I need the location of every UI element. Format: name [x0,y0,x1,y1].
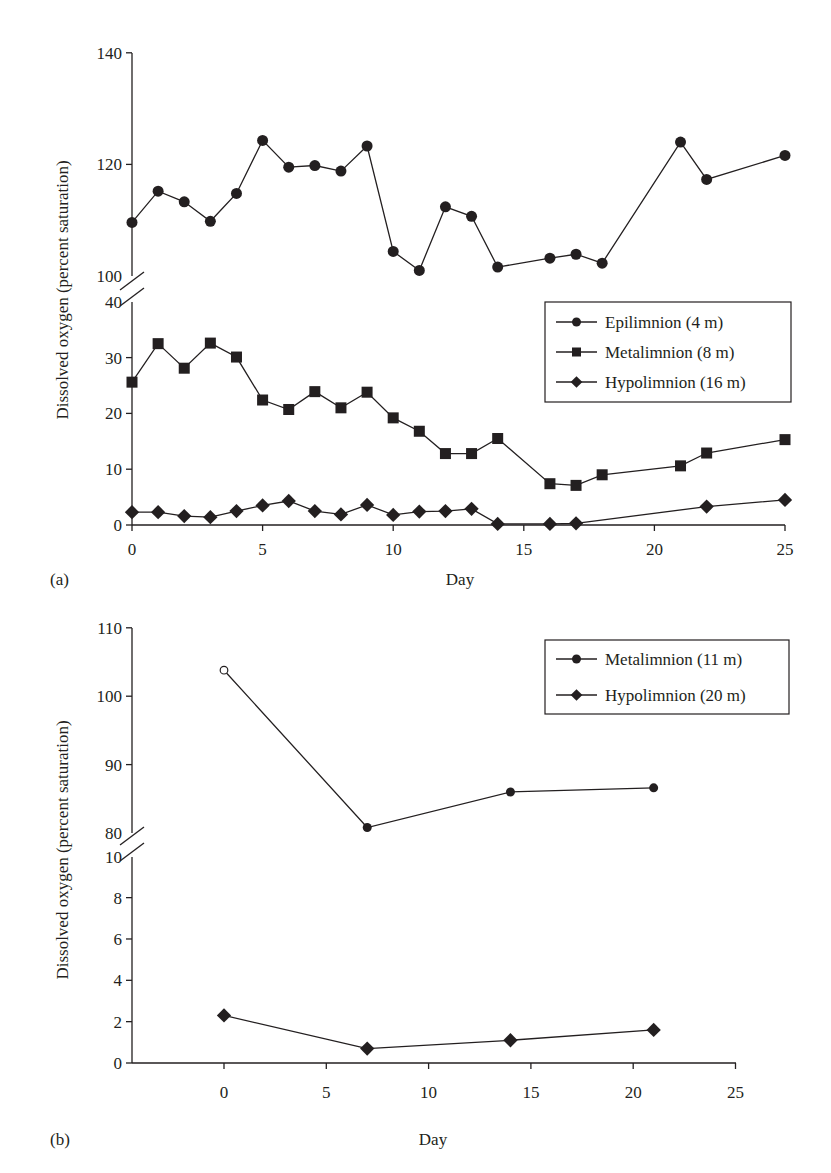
data-point-diamond-icon [360,498,374,512]
x-tick-label: 25 [727,1083,744,1102]
data-point-square-icon [466,448,477,459]
data-point-square-icon [780,434,791,445]
data-point-circle-icon [127,217,138,228]
x-tick-label: 20 [625,1083,642,1102]
y-tick-label: 110 [97,619,122,638]
data-point-circle-icon [571,249,582,260]
data-point-square-icon [492,433,503,444]
data-point-circle-icon [309,160,320,171]
data-point-diamond-icon [255,498,269,512]
y-tick-label: 0 [114,516,123,535]
data-point-circle-icon [466,211,477,222]
series-line [132,500,785,524]
data-point-square-icon [283,404,294,415]
data-point-circle-icon [220,666,228,674]
x-axis-title: Day [419,1130,448,1149]
data-point-circle-icon [335,166,346,177]
y-tick-label: 100 [97,267,123,286]
y-tick-label: 10 [105,848,122,867]
data-point-diamond-icon [412,504,426,518]
data-point-circle-icon [780,150,791,161]
panel-label: (a) [50,570,69,589]
data-point-square-icon [127,377,138,388]
data-point-square-icon [257,395,268,406]
legend: Metalimnion (11 m)Hypolimnion (20 m) [545,640,789,714]
data-point-square-icon [205,338,216,349]
legend-label: Hypolimnion (20 m) [605,686,746,705]
data-point-diamond-icon [334,507,348,521]
data-point-diamond-icon [360,1041,374,1055]
data-point-square-icon [153,338,164,349]
data-point-square-icon [675,460,686,471]
x-tick-label: 5 [322,1083,331,1102]
data-point-diamond-icon [203,510,217,524]
data-point-circle-icon [492,262,503,273]
panel-b-chart: 051015202502468108090100110DayDissolved … [50,619,789,1149]
y-tick-label: 2 [114,1013,123,1032]
legend-label: Metalimnion (8 m) [605,343,734,362]
data-point-diamond-icon [229,504,243,518]
y-tick-label: 40 [105,293,122,312]
x-tick-label: 25 [777,540,794,559]
data-point-diamond-icon [503,1033,517,1047]
data-point-square-icon [309,386,320,397]
data-point-circle-icon [283,162,294,173]
series-hypolimnion-20-m [217,1008,661,1055]
legend: Epilimnion (4 m)Metalimnion (8 m)Hypolim… [545,302,791,402]
data-point-circle-icon [506,787,515,796]
data-point-diamond-icon [308,504,322,518]
x-tick-label: 20 [646,540,663,559]
data-point-diamond-icon [647,1023,661,1037]
x-tick-label: 10 [420,1083,437,1102]
y-tick-label: 0 [114,1054,123,1073]
data-point-circle-icon [675,137,686,148]
data-point-circle-icon [153,186,164,197]
data-point-circle-icon [388,246,399,257]
y-tick-label: 140 [97,44,123,63]
series-line [224,1015,654,1048]
data-point-circle-icon [257,135,268,146]
y-tick-label: 100 [97,687,123,706]
legend-label: Metalimnion (11 m) [605,650,742,669]
y-tick-label: 30 [105,349,122,368]
data-point-diamond-icon [125,505,139,519]
y-tick-label: 6 [114,930,123,949]
y-tick-label: 120 [97,155,123,174]
x-tick-label: 0 [220,1083,229,1102]
data-point-circle-icon [362,140,373,151]
data-point-square-icon [571,480,582,491]
x-tick-label: 15 [515,540,532,559]
data-point-diamond-icon [543,517,557,531]
series-line [132,140,785,270]
y-tick-label: 10 [105,460,122,479]
data-point-diamond-icon [217,1008,231,1022]
data-point-diamond-icon [491,517,505,531]
y-tick-label: 80 [105,824,122,843]
x-tick-label: 5 [258,540,267,559]
data-point-circle-icon [649,783,658,792]
data-point-square-icon [597,469,608,480]
figure: 0510152025010203040100120140DayDissolved… [0,0,831,1173]
data-point-diamond-icon [464,502,478,516]
data-point-square-icon [388,412,399,423]
data-point-square-icon [179,363,190,374]
data-point-circle-icon [701,174,712,185]
data-point-square-icon [362,387,373,398]
data-point-circle-icon [205,216,216,227]
series-epilimnion-4-m [127,135,791,276]
legend-label: Hypolimnion (16 m) [605,373,746,392]
y-tick-label: 8 [114,889,123,908]
data-point-circle-icon [440,201,451,212]
data-point-circle-icon [363,823,372,832]
data-point-circle-icon [414,265,425,276]
legend-label: Epilimnion (4 m) [605,313,723,332]
data-point-diamond-icon [699,499,713,513]
y-axis-title: Dissolved oxygen (percent saturation) [53,160,72,419]
data-point-diamond-icon [151,505,165,519]
data-point-circle-icon [544,253,555,264]
legend-circle-icon [572,318,581,327]
data-point-diamond-icon [386,508,400,522]
data-point-square-icon [544,478,555,489]
y-tick-label: 90 [105,756,122,775]
panel-a-chart: 0510152025010203040100120140DayDissolved… [50,44,794,589]
